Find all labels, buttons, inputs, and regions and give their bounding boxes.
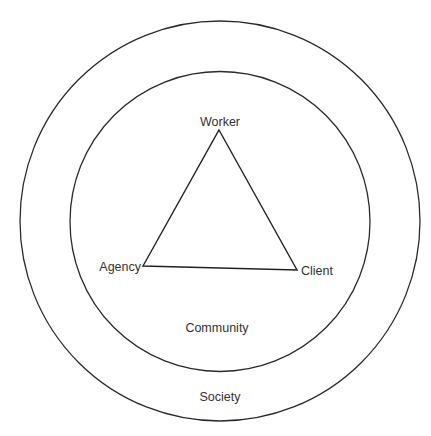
worker-agency-client-triangle [143, 130, 297, 270]
client-label: Client [301, 264, 333, 278]
community-label: Community [185, 321, 249, 335]
society-ring [20, 21, 420, 421]
worker-label: Worker [200, 115, 240, 129]
agency-label: Agency [99, 260, 141, 274]
society-label: Society [200, 390, 242, 404]
social-system-diagram: Worker Agency Client Community Society [0, 0, 431, 436]
